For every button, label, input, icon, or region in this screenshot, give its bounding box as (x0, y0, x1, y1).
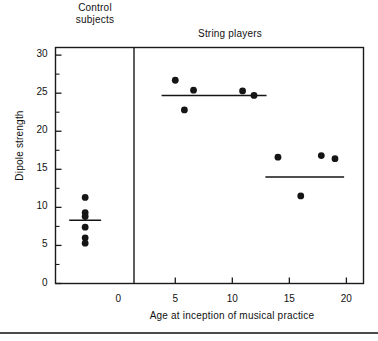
data-point (181, 107, 188, 114)
scatter-plot-figure (0, 0, 378, 341)
data-point (332, 155, 339, 162)
x-tick-label: 5 (163, 293, 187, 304)
y-tick-label: 25 (24, 86, 48, 97)
mean-lines (69, 95, 344, 220)
plot-border (56, 48, 364, 284)
y-tick-label: 0 (24, 277, 48, 288)
data-point (172, 77, 179, 84)
plot-frame (56, 48, 364, 284)
data-points (82, 77, 339, 247)
data-point (239, 87, 246, 94)
y-axis-ticks (56, 55, 62, 283)
y-axis-label: Dipole strength (14, 81, 25, 211)
y-tick-label: 20 (24, 124, 48, 135)
data-point (82, 213, 89, 220)
data-point (82, 224, 89, 231)
data-point (190, 87, 197, 94)
y-tick-label: 15 (24, 162, 48, 173)
data-point (82, 194, 89, 201)
x-axis-label: Age at inception of musical practice (92, 310, 372, 321)
data-point (297, 193, 304, 200)
group-label-control: Control subjects (52, 2, 138, 26)
x-tick-label: 10 (220, 293, 244, 304)
group-label-string-players: String players (150, 28, 310, 40)
x-axis-ticks (118, 278, 346, 284)
x-tick-label: 0 (106, 293, 130, 304)
y-tick-label: 5 (24, 238, 48, 249)
data-point (251, 92, 258, 99)
data-point (275, 154, 282, 161)
y-tick-label: 10 (24, 200, 48, 211)
data-point (82, 240, 89, 247)
bottom-divider-rule (0, 332, 378, 334)
data-point (318, 152, 325, 159)
y-tick-label: 30 (24, 48, 48, 59)
x-tick-label: 15 (277, 293, 301, 304)
x-tick-label: 20 (334, 293, 358, 304)
